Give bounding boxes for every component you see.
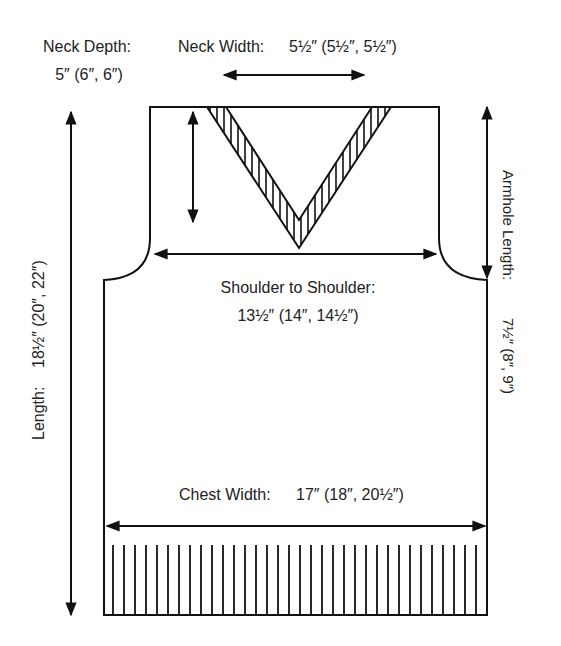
neck-width-value: 5½″ (5½″, 5½″) <box>289 38 397 55</box>
hem-ribbing <box>113 545 476 615</box>
armhole-title: Armhole Length: <box>500 170 517 280</box>
neck-depth-title: Neck Depth: <box>43 38 131 55</box>
chest-width-title: Chest Width: <box>179 486 271 503</box>
garment-outline <box>104 107 487 615</box>
shoulder-title: Shoulder to Shoulder: <box>221 279 376 296</box>
chest-width-value: 17″ (18″, 20½″) <box>296 486 404 503</box>
shoulder-value: 13½″ (14″, 14½″) <box>237 307 358 324</box>
vest-schematic: Neck Depth: 5″ (6″, 6″) Neck Width: 5½″ … <box>0 0 561 646</box>
neck-width-title: Neck Width: <box>178 38 264 55</box>
neck-depth-value: 5″ (6″, 6″) <box>55 66 123 83</box>
armhole-value: 7½″ (8″, 9″) <box>500 318 517 394</box>
length-value: 18½″ (20″, 22″) <box>30 260 47 368</box>
v-neck-band <box>207 100 391 260</box>
length-title: Length: <box>30 387 47 440</box>
